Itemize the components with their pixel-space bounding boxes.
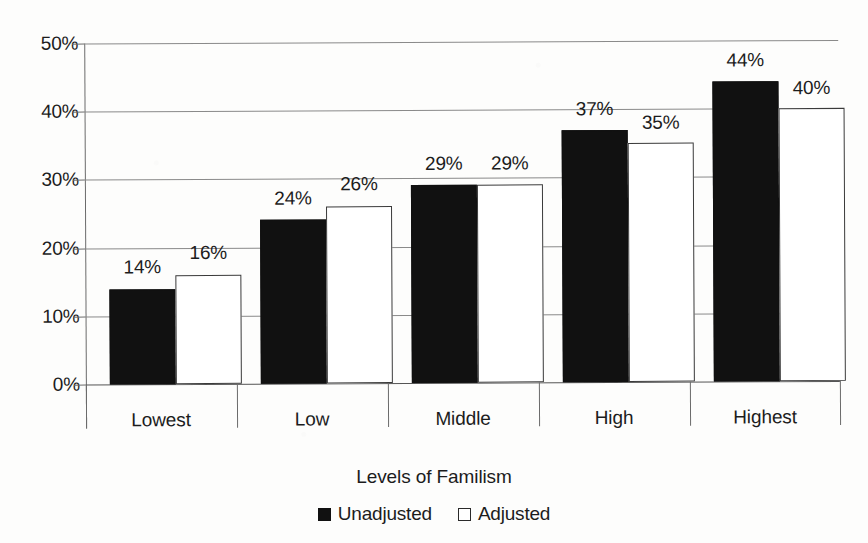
bar-unadjusted-lowest[interactable] — [109, 289, 175, 385]
legend-label-adjusted: Adjusted — [478, 503, 550, 525]
value-label-adjusted-low: 26% — [340, 173, 378, 195]
open-square-icon — [458, 508, 471, 521]
value-label-unadjusted-high: 37% — [576, 98, 614, 120]
plot-area: 14% 16% 24% 26% 29% 29% 37% 35% 44% 40% — [84, 40, 840, 385]
category-separator-start — [86, 385, 87, 429]
y-tick-mark-0 — [74, 385, 86, 386]
category-separator-1 — [237, 384, 238, 428]
category-label-middle: Middle — [435, 408, 490, 430]
filled-square-icon — [318, 508, 331, 521]
value-label-adjusted-high: 35% — [642, 112, 680, 134]
gridline-50 — [84, 40, 838, 45]
legend-item-unadjusted[interactable]: Unadjusted — [318, 503, 432, 525]
category-separator-end — [840, 381, 841, 425]
bar-unadjusted-highest[interactable] — [712, 81, 779, 381]
value-label-adjusted-highest: 40% — [793, 77, 831, 99]
y-tick-mark-50 — [72, 44, 84, 45]
y-tick-mark-20 — [73, 248, 85, 249]
category-label-high: High — [595, 407, 634, 429]
y-tick-mark-10 — [74, 316, 86, 317]
category-label-lowest: Lowest — [131, 409, 191, 431]
category-label-low: Low — [295, 408, 330, 430]
y-tick-mark-40 — [73, 112, 85, 113]
bar-adjusted-middle[interactable] — [477, 185, 544, 383]
bar-chart-figure: 50% 40% 30% 20% 10% 0% — [0, 0, 868, 543]
bar-adjusted-highest[interactable] — [779, 108, 846, 381]
bar-unadjusted-low[interactable] — [260, 220, 327, 384]
bar-adjusted-lowest[interactable] — [175, 275, 242, 384]
value-label-adjusted-lowest: 16% — [189, 242, 227, 264]
category-separator-2 — [388, 383, 389, 427]
bar-adjusted-high[interactable] — [628, 143, 695, 382]
category-separator-4 — [690, 382, 691, 426]
bar-adjusted-low[interactable] — [326, 206, 393, 384]
x-axis-title: Levels of Familism — [0, 466, 868, 488]
value-label-adjusted-middle: 29% — [491, 152, 529, 174]
category-separator-3 — [539, 382, 540, 426]
chart-legend: Unadjusted Adjusted — [0, 503, 868, 525]
value-label-unadjusted-lowest: 14% — [124, 256, 162, 278]
y-tick-mark-30 — [73, 180, 85, 181]
bar-unadjusted-high[interactable] — [562, 130, 629, 383]
legend-label-unadjusted: Unadjusted — [338, 503, 432, 525]
value-label-unadjusted-middle: 29% — [425, 153, 463, 175]
value-label-unadjusted-low: 24% — [274, 187, 312, 209]
y-axis-labels: 50% 40% 30% 20% 10% 0% — [0, 0, 81, 543]
legend-item-adjusted[interactable]: Adjusted — [458, 503, 550, 525]
category-label-highest: Highest — [733, 406, 797, 428]
bar-unadjusted-middle[interactable] — [411, 185, 478, 383]
value-label-unadjusted-highest: 44% — [727, 49, 765, 71]
